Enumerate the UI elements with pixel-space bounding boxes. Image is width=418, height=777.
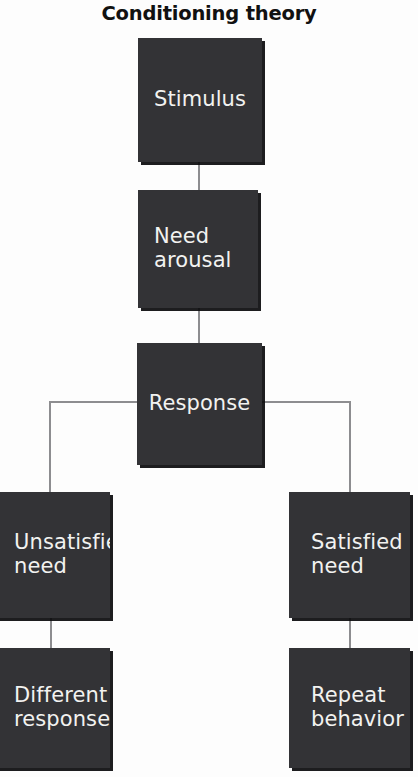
node-satisfied-need: Satisfied need bbox=[289, 492, 410, 618]
node-need-arousal: Need arousal bbox=[138, 190, 258, 308]
node-unsatisfied-need-label: Unsatisfied need bbox=[0, 531, 110, 579]
node-repeat-behavior: Repeat behavior bbox=[289, 648, 410, 768]
edge-response-unsatisfied bbox=[50, 402, 138, 494]
node-response-label: Response bbox=[149, 392, 251, 416]
node-stimulus-label: Stimulus bbox=[154, 88, 246, 112]
node-response: Response bbox=[137, 343, 262, 465]
diagram-canvas: Conditioning theory Stimulus Need arousa… bbox=[0, 0, 418, 777]
node-repeat-behavior-label: Repeat behavior bbox=[289, 684, 404, 732]
node-need-arousal-label: Need arousal bbox=[138, 225, 232, 273]
node-different-response-label: Different response bbox=[0, 684, 110, 732]
node-different-response: Different response bbox=[0, 648, 110, 768]
node-satisfied-need-label: Satisfied need bbox=[289, 531, 403, 579]
node-stimulus: Stimulus bbox=[138, 38, 262, 162]
node-unsatisfied-need: Unsatisfied need bbox=[0, 492, 110, 618]
edge-response-satisfied bbox=[261, 402, 350, 494]
